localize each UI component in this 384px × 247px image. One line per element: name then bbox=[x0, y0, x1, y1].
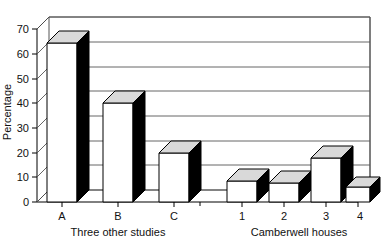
bar-A-side bbox=[77, 31, 89, 202]
x-label-B: B bbox=[114, 210, 121, 222]
y-label-40: 40 bbox=[17, 97, 29, 109]
y-label-60: 60 bbox=[17, 48, 29, 60]
bar-B bbox=[103, 91, 145, 202]
group-label-three-other-studies: Three other studies bbox=[71, 226, 166, 238]
bar-2 bbox=[269, 171, 311, 202]
group-label-camberwell-houses: Camberwell houses bbox=[251, 226, 348, 238]
y-label-70: 70 bbox=[17, 23, 29, 35]
bar-1-front bbox=[227, 181, 257, 202]
x-tick-labels: A B C 1 2 3 4 bbox=[58, 210, 363, 222]
bar-C-front bbox=[159, 153, 189, 202]
chart-svg: 0 10 20 30 40 50 60 70 Percentage bbox=[0, 0, 384, 247]
y-axis-title: Percentage bbox=[1, 84, 13, 140]
bar-2-front bbox=[269, 183, 299, 202]
x-tick-marks bbox=[62, 202, 358, 207]
bar-A-front bbox=[47, 43, 77, 202]
bar-A bbox=[47, 31, 89, 202]
y-label-30: 30 bbox=[17, 122, 29, 134]
gridline-70 bbox=[37, 17, 370, 29]
x-label-4: 4 bbox=[357, 210, 363, 222]
x-label-A: A bbox=[58, 210, 66, 222]
bar-4-front bbox=[346, 187, 370, 202]
bar-B-front bbox=[103, 103, 133, 202]
y-tick-labels: 0 10 20 30 40 50 60 70 bbox=[17, 23, 29, 208]
x-label-3: 3 bbox=[323, 210, 329, 222]
bar-1 bbox=[227, 169, 269, 202]
y-label-0: 0 bbox=[23, 196, 29, 208]
y-label-20: 20 bbox=[17, 147, 29, 159]
y-label-50: 50 bbox=[17, 73, 29, 85]
x-label-C: C bbox=[170, 210, 178, 222]
y-label-10: 10 bbox=[17, 171, 29, 183]
x-label-2: 2 bbox=[281, 210, 287, 222]
bar-C bbox=[159, 141, 201, 202]
percentage-bar-chart: 0 10 20 30 40 50 60 70 Percentage bbox=[0, 0, 384, 247]
y-tick-marks bbox=[32, 29, 37, 202]
bar-3-front bbox=[311, 158, 341, 202]
x-label-1: 1 bbox=[239, 210, 245, 222]
bar-B-side bbox=[133, 91, 145, 202]
